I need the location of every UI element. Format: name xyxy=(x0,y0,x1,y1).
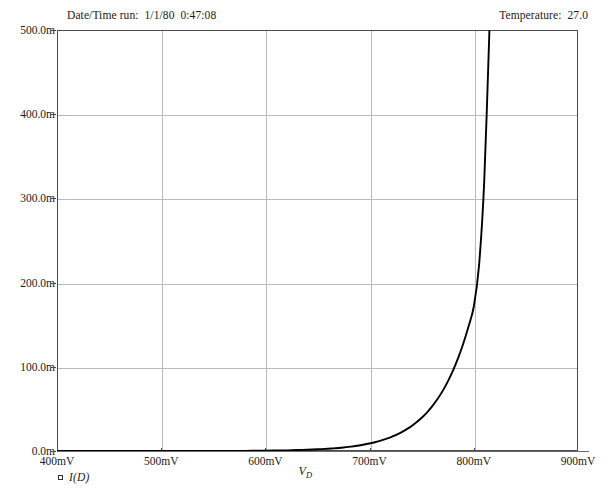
y-tick-mark xyxy=(51,451,56,452)
chart-legend: I(D) xyxy=(58,471,90,483)
data-curve-id xyxy=(57,30,578,451)
x-axis-baseline xyxy=(57,451,589,452)
y-axis-ticks: 0.0m100.0m200.0m300.0m400.0m500.0m xyxy=(0,30,55,451)
y-tick-mark xyxy=(51,198,56,199)
y-tick-mark xyxy=(51,283,56,284)
legend-item-label: I(D) xyxy=(69,471,90,483)
y-tick-mark xyxy=(51,367,56,368)
y-tick-label: 200.0m xyxy=(3,277,55,289)
y-tick-label: 400.0m xyxy=(3,108,55,120)
chart-plot-wrapper: 0.0m100.0m200.0m300.0m400.0m500.0m 400mV… xyxy=(0,0,611,495)
y-tick-label: 100.0m xyxy=(3,361,55,373)
y-tick-mark xyxy=(51,30,56,31)
x-axis-title-subscript: D xyxy=(306,470,312,480)
square-marker-icon xyxy=(58,475,63,480)
x-axis-title-text: V xyxy=(298,464,306,478)
curve-path-id xyxy=(57,30,489,451)
y-tick-label: 300.0m xyxy=(3,192,55,204)
x-axis-title: VD xyxy=(0,464,611,480)
y-tick-label: 500.0m xyxy=(3,24,55,36)
y-tick-mark xyxy=(51,114,56,115)
